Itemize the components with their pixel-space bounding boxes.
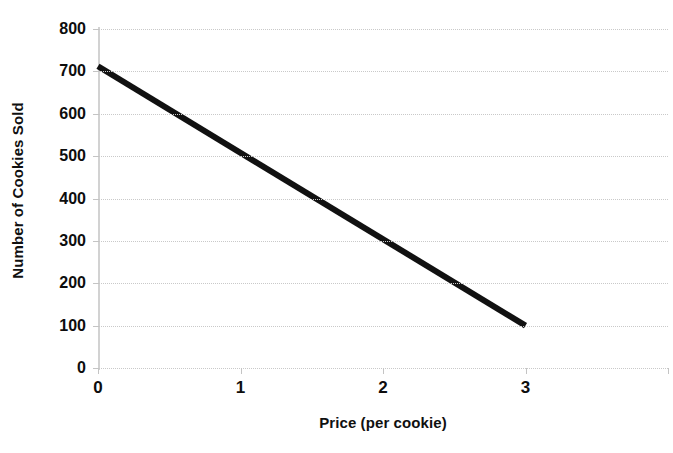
series-line-demand [98,66,526,325]
plot-area [98,29,668,368]
y-tick-mark [93,29,99,30]
y-tick-label: 400 [59,190,86,208]
y-tick-label: 200 [59,274,86,292]
gridline-y [98,326,668,327]
y-tick-label: 700 [59,62,86,80]
y-tick-mark [93,283,99,284]
y-axis-title-text: Number of Cookies Sold [9,102,26,278]
y-tick-mark [93,199,99,200]
x-axis-title: Price (per cookie) [98,414,668,431]
y-tick-mark [93,326,99,327]
gridline-y [98,199,668,200]
x-tick-label: 1 [236,378,245,398]
y-axis-title: Number of Cookies Sold [0,0,34,380]
y-tick-mark [93,114,99,115]
y-tick-label: 800 [59,20,86,38]
gridline-y [98,29,668,30]
y-tick-label: 500 [59,147,86,165]
y-tick-label: 100 [59,317,86,335]
x-tick-mark [526,368,527,374]
gridline-y [98,156,668,157]
gridline-y [98,241,668,242]
y-tick-label: 300 [59,232,86,250]
y-tick-label: 600 [59,105,86,123]
x-tick-mark [383,368,384,374]
y-tick-mark [93,71,99,72]
y-axis-tick-labels: 0100200300400500600700800 [36,0,92,453]
y-tick-mark [93,241,99,242]
demand-curve-chart: Number of Cookies Sold 01002003004005006… [0,0,673,453]
x-tick-mark [668,368,669,374]
y-tick-mark [93,156,99,157]
x-tick-label: 3 [521,378,530,398]
x-tick-mark [241,368,242,374]
x-tick-mark [98,368,99,374]
gridline-y [98,114,668,115]
x-axis-tick-labels: 0123 [98,378,668,408]
y-tick-label: 0 [77,359,86,377]
gridline-y [98,283,668,284]
x-tick-label: 0 [93,378,102,398]
x-tick-label: 2 [378,378,387,398]
gridline-y [98,71,668,72]
